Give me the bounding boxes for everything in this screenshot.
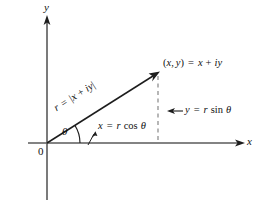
polar-complex-number-figure: y x 0 θ (x,y)=x+iy y=rsinθ x=rcosθ r=|x+… — [0, 0, 265, 205]
point-real-part: x — [198, 57, 203, 68]
angle-arc — [75, 125, 80, 143]
point-equals: = — [184, 57, 198, 68]
vertical-y: y — [185, 104, 190, 115]
point-label: (x,y)=x+iy — [163, 58, 222, 69]
horizontal-equals: = — [103, 120, 117, 131]
horizontal-label-leader-arrowhead — [92, 131, 98, 137]
vertical-equals: = — [190, 104, 204, 115]
vertical-theta: θ — [223, 104, 231, 115]
figure-canvas — [0, 0, 265, 205]
horizontal-cos: cos — [121, 120, 138, 131]
point-plus: + — [203, 57, 215, 68]
x-axis-label: x — [247, 136, 252, 147]
horizontal-component-label: x=rcosθ — [98, 121, 146, 132]
horizontal-x: x — [98, 120, 103, 131]
point-imaginary-part: y — [217, 57, 222, 68]
vertical-sin: sin — [208, 104, 223, 115]
horizontal-theta: θ — [138, 120, 146, 131]
angle-theta-label: θ — [62, 126, 67, 137]
origin-label: 0 — [38, 146, 44, 157]
y-axis-label: y — [44, 2, 49, 13]
vertical-component-label: y=rsinθ — [185, 105, 231, 116]
